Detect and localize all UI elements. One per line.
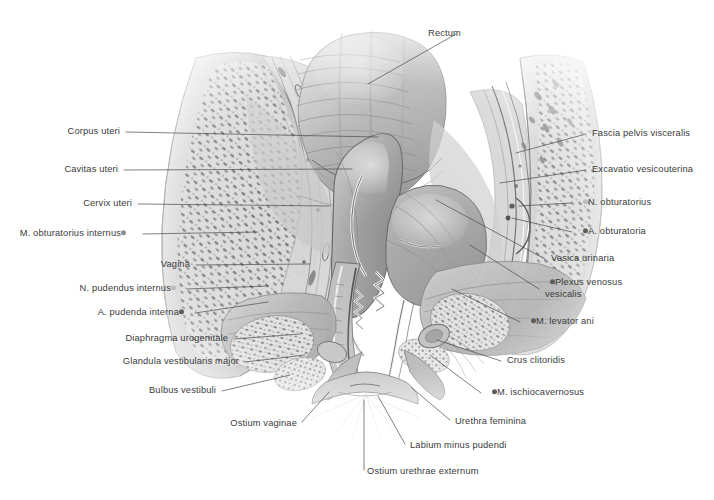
bullet-marker-m-obturatorius-internus [121, 230, 126, 235]
label-vesica-urinaria: Vesica urinaria [551, 253, 614, 265]
bullet-marker-n-pudendus-internus [171, 285, 176, 290]
label-text-diaphragma-urogenitale: Diaphragma urogenitale [125, 333, 228, 343]
label-text-m-ischiocavernosus: M. ischiocavernosus [497, 387, 584, 397]
label-ostium-urethrae-externum: Ostium urethrae externum [367, 466, 479, 478]
label-text-bulbus-vestibuli: Bulbus vestibuli [149, 385, 216, 395]
label-m-obturatorius-internus: M. obturatorius internus [20, 228, 131, 240]
anatomical-plate: RectumFascia pelvis visceralisExcavatio … [0, 0, 714, 500]
label-fascia-pelvis-visceralis: Fascia pelvis visceralis [592, 128, 690, 140]
label-corpus-uteri: Corpus uteri [68, 126, 120, 138]
label-text-vesica-urinaria: Vesica urinaria [551, 253, 614, 263]
label-diaphragma-urogenitale: Diaphragma urogenitale [125, 333, 228, 345]
label-ostium-vaginae: Ostium vaginae [230, 418, 297, 430]
label-text-corpus-uteri: Corpus uteri [68, 126, 120, 136]
label-layer: RectumFascia pelvis visceralisExcavatio … [0, 0, 714, 500]
label-text-labium-minus-pudendi: Labium minus pudendi [410, 440, 507, 450]
label-urethra-feminina: Urethra feminina [455, 416, 526, 428]
label-text-m-levator-ani: M. levator ani [536, 316, 594, 326]
label-text-a-pudenda-interna: A. pudenda interna [98, 307, 179, 317]
label-plexus-venosus-vesicalis: Plexus venosus vesicalis [545, 277, 640, 300]
label-vagina: Vagina [161, 259, 190, 271]
label-text-urethra-feminina: Urethra feminina [455, 416, 526, 426]
label-text-ostium-urethrae-externum: Ostium urethrae externum [367, 466, 479, 476]
label-bulbus-vestibuli: Bulbus vestibuli [149, 385, 216, 397]
label-m-ischiocavernosus: M. ischiocavernosus [487, 387, 584, 399]
label-text-rectum: Rectum [428, 28, 461, 38]
label-crus-clitoridis: Crus clitoridis [507, 355, 565, 367]
label-text-fascia-pelvis-visceralis: Fascia pelvis visceralis [592, 128, 690, 138]
label-text-vagina: Vagina [161, 259, 190, 269]
label-text-cervix-uteri: Cervix uteri [83, 198, 132, 208]
label-excavatio-vesicouterina: Excavatio vesicouterina [592, 164, 693, 176]
bullet-marker-a-pudenda-interna [179, 309, 184, 314]
label-text-m-obturatorius-internus: M. obturatorius internus [20, 228, 121, 238]
label-text-glandula-vestibularis: Glandula vestibularis major [123, 356, 239, 366]
label-a-obturatoria: A. obturatoria [578, 226, 646, 238]
label-text-crus-clitoridis: Crus clitoridis [507, 355, 565, 365]
label-n-obturatorius: N. obturatorius [578, 197, 651, 209]
label-a-pudenda-interna: A. pudenda interna [98, 307, 189, 319]
label-labium-minus-pudendi: Labium minus pudendi [410, 440, 507, 452]
label-text-ostium-vaginae: Ostium vaginae [230, 418, 297, 428]
label-text-excavatio-vesicouterina: Excavatio vesicouterina [592, 164, 693, 174]
label-m-levator-ani: M. levator ani [526, 316, 594, 328]
label-cavitas-uteri: Cavitas uteri [64, 164, 118, 176]
label-text-n-pudendus-internus: N. pudendus internus [80, 283, 171, 293]
label-text-n-obturatorius: N. obturatorius [588, 197, 651, 207]
label-rectum: Rectum [428, 28, 461, 40]
label-text-plexus-venosus-vesicalis: Plexus venosus vesicalis [545, 277, 622, 299]
label-text-a-obturatoria: A. obturatoria [588, 226, 646, 236]
label-text-cavitas-uteri: Cavitas uteri [64, 164, 118, 174]
label-cervix-uteri: Cervix uteri [83, 198, 132, 210]
label-n-pudendus-internus: N. pudendus internus [80, 283, 181, 295]
label-glandula-vestibularis: Glandula vestibularis major [123, 356, 239, 368]
